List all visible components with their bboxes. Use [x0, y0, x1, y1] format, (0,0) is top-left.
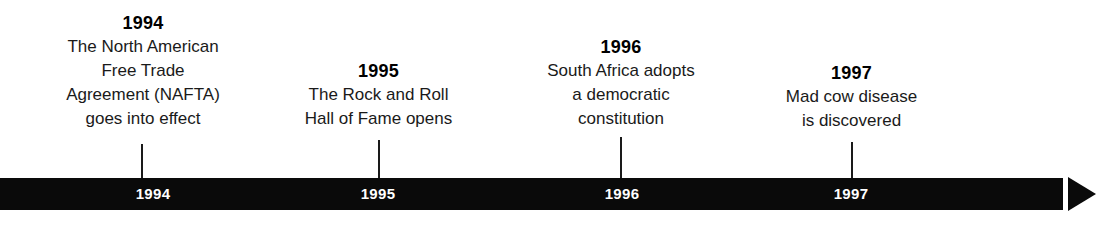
- timeline-arrow-icon: [1068, 177, 1096, 211]
- timeline-event-1994: 1994 The North American Free Trade Agree…: [45, 11, 241, 131]
- event-description-line: goes into effect: [45, 107, 241, 131]
- event-year-label: 1997: [762, 61, 941, 85]
- event-description-line: South Africa adopts: [523, 59, 719, 83]
- timeline-axis-label-1996: 1996: [572, 178, 672, 210]
- event-description: Mad cow disease is discovered: [762, 85, 941, 133]
- timeline-tick-1996: [620, 137, 622, 178]
- event-description-line: is discovered: [762, 109, 941, 133]
- event-year-label: 1995: [284, 59, 473, 83]
- event-description: The Rock and Roll Hall of Fame opens: [284, 83, 473, 131]
- timeline-axis-label-1995: 1995: [328, 178, 428, 210]
- timeline-axis-label-1994: 1994: [103, 178, 203, 210]
- event-description-line: Free Trade: [45, 59, 241, 83]
- timeline-event-1997: 1997 Mad cow disease is discovered: [762, 61, 941, 133]
- event-description-line: Agreement (NAFTA): [45, 83, 241, 107]
- timeline-tick-1997: [851, 142, 853, 178]
- timeline-axis-label-1997: 1997: [801, 178, 901, 210]
- event-year-label: 1996: [523, 35, 719, 59]
- timeline-event-1996: 1996 South Africa adopts a democratic co…: [523, 35, 719, 131]
- timeline-tick-1994: [141, 144, 143, 178]
- event-description-line: The North American: [45, 35, 241, 59]
- event-description-line: The Rock and Roll: [284, 83, 473, 107]
- event-description-line: Hall of Fame opens: [284, 107, 473, 131]
- event-description-line: Mad cow disease: [762, 85, 941, 109]
- event-description-line: a democratic: [523, 83, 719, 107]
- timeline-event-1995: 1995 The Rock and Roll Hall of Fame open…: [284, 59, 473, 131]
- event-year-label: 1994: [45, 11, 241, 35]
- event-description: The North American Free Trade Agreement …: [45, 35, 241, 131]
- timeline-tick-1995: [378, 140, 380, 178]
- event-description-line: constitution: [523, 107, 719, 131]
- event-description: South Africa adopts a democratic constit…: [523, 59, 719, 131]
- timeline-figure: 1994 The North American Free Trade Agree…: [0, 0, 1102, 231]
